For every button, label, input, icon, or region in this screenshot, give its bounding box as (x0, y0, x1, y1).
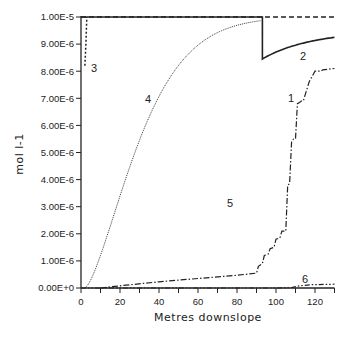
x-tick-label: 40 (154, 296, 165, 307)
y-tick-label: 5.00E-6 (41, 147, 74, 158)
series-group (81, 17, 335, 288)
series-labels: 123456 (91, 50, 308, 285)
y-tick-label: 6.00E-6 (41, 120, 74, 131)
y-tick-label: 1.00E-6 (41, 255, 74, 266)
x-axis-title: Metres downslope (154, 311, 262, 324)
series-label-4: 4 (145, 93, 151, 105)
series-label-6: 6 (302, 273, 308, 285)
x-tick-label: 60 (193, 296, 204, 307)
series-line-3 (85, 17, 87, 66)
series-label-2: 2 (300, 50, 306, 62)
series-label-3: 3 (91, 62, 97, 74)
x-tick-label: 20 (115, 296, 126, 307)
series-line-4 (85, 21, 261, 288)
y-tick-label: 2.00E-6 (41, 228, 74, 239)
x-tick-label: 100 (268, 296, 284, 307)
x-tick-label: 0 (78, 296, 83, 307)
y-tick-label: 3.00E-6 (41, 201, 74, 212)
y-tick-label: 7.00E-6 (41, 93, 74, 104)
y-axis-title: mol l-1 (13, 133, 26, 175)
y-axis: 0.00E+01.00E-62.00E-63.00E-64.00E-65.00E… (38, 11, 81, 293)
y-tick-label: 0.00E+0 (38, 282, 74, 293)
y-tick-label: 4.00E-6 (41, 174, 74, 185)
x-tick-label: 120 (307, 296, 323, 307)
x-axis: 020406080100120 (78, 288, 334, 307)
y-tick-label: 9.00E-6 (41, 38, 74, 49)
chart: 0.00E+01.00E-62.00E-63.00E-64.00E-65.00E… (0, 0, 352, 337)
series-line-1 (81, 17, 335, 59)
x-tick-label: 80 (232, 296, 243, 307)
plot-area (81, 16, 335, 288)
series-label-5: 5 (227, 197, 233, 209)
series-label-1: 1 (288, 92, 294, 104)
series-line-5 (101, 69, 335, 289)
y-tick-label: 1.00E-5 (41, 11, 74, 22)
y-tick-label: 8.00E-6 (41, 66, 74, 77)
